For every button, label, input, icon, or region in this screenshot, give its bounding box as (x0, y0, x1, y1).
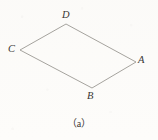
figure-panel: D C B A （a） (0, 0, 158, 140)
parallelogram-outline (20, 24, 136, 88)
vertex-label-d: D (62, 10, 70, 21)
vertex-label-a: A (138, 55, 144, 66)
vertex-label-c: C (8, 44, 15, 55)
figure-caption: （a） (0, 115, 158, 130)
vertex-label-b: B (87, 91, 93, 102)
